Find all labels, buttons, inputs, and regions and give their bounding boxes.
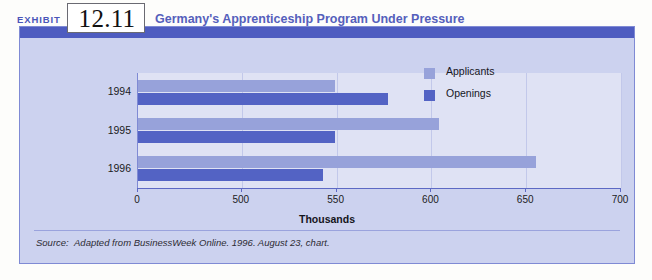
y-axis-label-1996: 1996 <box>71 162 131 174</box>
x-axis-tick-label: 650 <box>517 194 534 205</box>
chart-panel: Thousands 0500550600650700199419951996 A… <box>19 26 635 264</box>
x-axis-line <box>137 188 621 189</box>
plot-area <box>137 73 621 188</box>
x-axis-title: Thousands <box>20 213 634 225</box>
legend-swatch-applicants <box>424 68 435 79</box>
panel-body: Thousands 0500550600650700199419951996 A… <box>20 38 634 263</box>
source-text: Adapted from BusinessWeek Online. 1996. … <box>74 237 330 248</box>
exhibit-number-box: 12.11 <box>67 3 145 33</box>
x-axis-tick-label: 600 <box>422 194 439 205</box>
legend-label-applicants: Applicants <box>446 65 494 77</box>
x-axis-tick-label: 550 <box>327 194 344 205</box>
bar-openings-1995 <box>138 131 335 143</box>
y-axis-label-1995: 1995 <box>71 124 131 136</box>
gridline <box>337 73 338 188</box>
exhibit-title: Germany's Apprenticeship Program Under P… <box>155 12 465 26</box>
source-note: Source: Adapted from BusinessWeek Online… <box>36 237 330 248</box>
x-axis-tick <box>241 188 242 192</box>
source-prefix: Source: <box>36 237 69 248</box>
x-axis-tick <box>525 188 526 192</box>
x-axis-tick <box>620 188 621 192</box>
x-axis-tick <box>137 188 138 192</box>
bar-openings-1994 <box>138 93 388 105</box>
exhibit-figure: EXHIBIT 12.11 Germany's Apprenticeship P… <box>0 0 652 280</box>
bar-applicants-1994 <box>138 80 335 92</box>
exhibit-label: EXHIBIT <box>17 14 61 25</box>
x-axis-tick-label: 700 <box>612 194 629 205</box>
source-divider <box>34 230 620 231</box>
legend-label-openings: Openings <box>446 87 491 99</box>
x-axis-tick <box>336 188 337 192</box>
legend-swatch-openings <box>424 90 435 101</box>
gridline <box>526 73 527 188</box>
gridline <box>621 73 622 188</box>
y-axis-label-1994: 1994 <box>71 85 131 97</box>
x-axis-tick-label: 0 <box>134 194 140 205</box>
x-axis-tick-label: 500 <box>233 194 250 205</box>
x-axis-tick <box>430 188 431 192</box>
exhibit-number: 12.11 <box>68 4 146 34</box>
bar-openings-1996 <box>138 169 323 181</box>
bar-applicants-1995 <box>138 118 439 130</box>
bar-applicants-1996 <box>138 156 536 168</box>
